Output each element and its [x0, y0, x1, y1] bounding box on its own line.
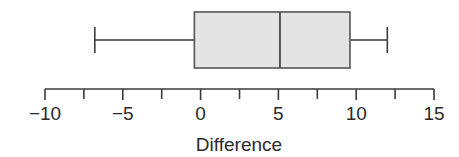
- x-axis-title: Difference: [196, 134, 282, 155]
- box-plot-chart: −10−5051015 Difference: [0, 0, 459, 157]
- tick-label: 0: [195, 103, 206, 124]
- tick-label: 15: [423, 103, 444, 124]
- iqr-box: [194, 12, 350, 68]
- x-axis: −10−5051015: [29, 89, 445, 124]
- tick-label: −10: [29, 103, 61, 124]
- tick-label: 5: [273, 103, 284, 124]
- box-plot: [95, 12, 388, 68]
- tick-label: −5: [112, 103, 134, 124]
- tick-label: 10: [346, 103, 367, 124]
